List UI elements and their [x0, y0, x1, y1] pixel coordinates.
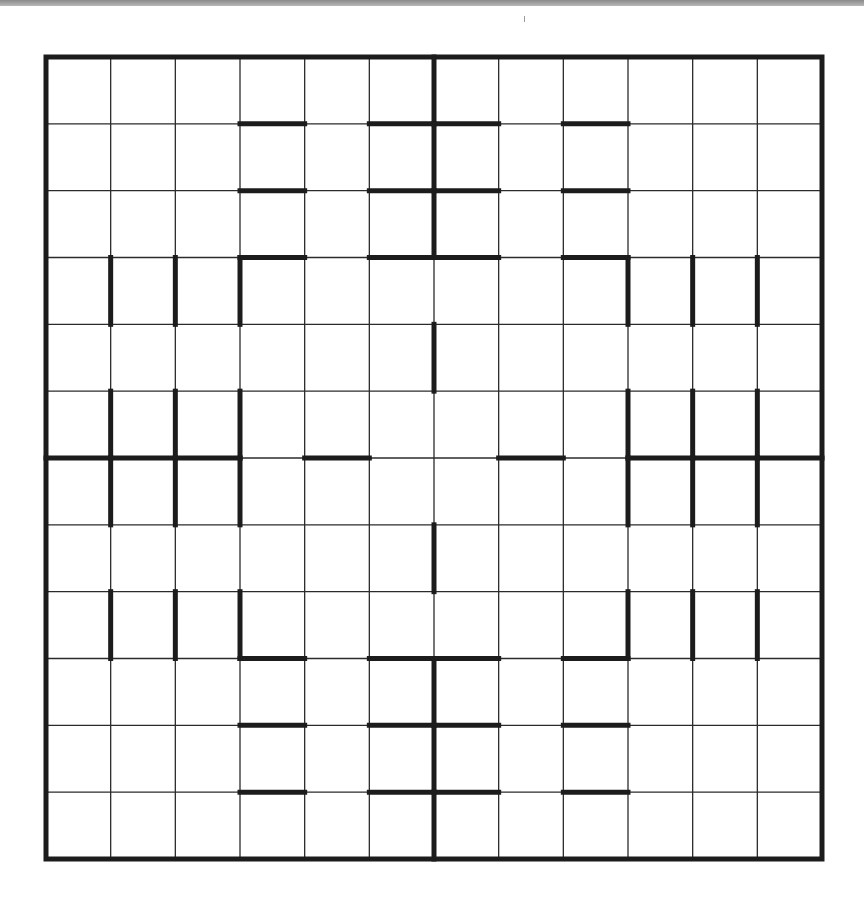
grid-cell-r3-c5[interactable]: [369, 258, 434, 325]
grid-cell-r0-c7[interactable]: [499, 57, 564, 124]
grid-cell-r10-c9[interactable]: [628, 725, 693, 792]
grid-cell-r0-c6[interactable]: [434, 57, 499, 124]
grid-cell-r3-c11[interactable]: [757, 258, 822, 325]
grid-cell-r2-c4[interactable]: [305, 191, 370, 258]
grid-cell-r11-c7[interactable]: [499, 792, 564, 859]
grid-cell-r2-c7[interactable]: [499, 191, 564, 258]
grid-cell-r1-c6[interactable]: [434, 124, 499, 191]
grid-cell-r0-c4[interactable]: [305, 57, 370, 124]
grid-cell-r8-c0[interactable]: [46, 592, 111, 659]
grid-cell-r3-c10[interactable]: [693, 258, 758, 325]
grid-cell-r5-c7[interactable]: [499, 391, 564, 458]
grid-cell-r2-c6[interactable]: [434, 191, 499, 258]
grid-cell-r10-c4[interactable]: [305, 725, 370, 792]
grid-cell-r2-c5[interactable]: [369, 191, 434, 258]
grid-cell-r9-c4[interactable]: [305, 659, 370, 726]
grid-cell-r7-c10[interactable]: [693, 525, 758, 592]
grid-cell-r9-c11[interactable]: [757, 659, 822, 726]
grid-cell-r5-c9[interactable]: [628, 391, 693, 458]
grid-cell-r1-c9[interactable]: [628, 124, 693, 191]
grid-cell-r8-c11[interactable]: [757, 592, 822, 659]
grid-cell-r2-c9[interactable]: [628, 191, 693, 258]
grid-cell-r11-c9[interactable]: [628, 792, 693, 859]
grid-cell-r8-c10[interactable]: [693, 592, 758, 659]
grid-cell-r3-c0[interactable]: [46, 258, 111, 325]
grid-cell-r8-c8[interactable]: [563, 592, 628, 659]
grid-cell-r6-c3[interactable]: [240, 458, 305, 525]
grid-cell-r1-c3[interactable]: [240, 124, 305, 191]
grid-cell-r1-c4[interactable]: [305, 124, 370, 191]
grid-cell-r3-c6[interactable]: [434, 258, 499, 325]
grid-cell-r11-c5[interactable]: [369, 792, 434, 859]
grid-cell-r6-c5[interactable]: [369, 458, 434, 525]
grid-cell-r5-c10[interactable]: [693, 391, 758, 458]
grid-cell-r1-c10[interactable]: [693, 124, 758, 191]
grid-cell-r7-c1[interactable]: [111, 525, 176, 592]
grid-cell-r3-c9[interactable]: [628, 258, 693, 325]
grid-cell-r11-c2[interactable]: [175, 792, 240, 859]
grid-cell-r0-c11[interactable]: [757, 57, 822, 124]
grid-cell-r0-c1[interactable]: [111, 57, 176, 124]
grid-cell-r1-c5[interactable]: [369, 124, 434, 191]
grid-cell-r7-c4[interactable]: [305, 525, 370, 592]
grid-cell-r2-c8[interactable]: [563, 191, 628, 258]
grid-cell-r9-c7[interactable]: [499, 659, 564, 726]
grid-cell-r0-c3[interactable]: [240, 57, 305, 124]
grid-cell-r8-c6[interactable]: [434, 592, 499, 659]
grid-cell-r6-c4[interactable]: [305, 458, 370, 525]
grid-cell-r10-c10[interactable]: [693, 725, 758, 792]
grid-cell-r10-c1[interactable]: [111, 725, 176, 792]
grid-cell-r7-c0[interactable]: [46, 525, 111, 592]
grid-cell-r9-c1[interactable]: [111, 659, 176, 726]
grid-cell-r4-c5[interactable]: [369, 324, 434, 391]
grid-cell-r10-c11[interactable]: [757, 725, 822, 792]
grid-cell-r3-c3[interactable]: [240, 258, 305, 325]
grid-cell-r0-c0[interactable]: [46, 57, 111, 124]
grid-cell-r8-c3[interactable]: [240, 592, 305, 659]
grid-cell-r7-c6[interactable]: [434, 525, 499, 592]
grid-cell-r0-c2[interactable]: [175, 57, 240, 124]
grid-cell-r0-c9[interactable]: [628, 57, 693, 124]
grid-cell-r11-c10[interactable]: [693, 792, 758, 859]
grid-cell-r11-c3[interactable]: [240, 792, 305, 859]
grid-cell-r4-c4[interactable]: [305, 324, 370, 391]
grid-cell-r2-c10[interactable]: [693, 191, 758, 258]
grid-cell-r11-c0[interactable]: [46, 792, 111, 859]
grid-cell-r5-c11[interactable]: [757, 391, 822, 458]
grid-cell-r11-c1[interactable]: [111, 792, 176, 859]
grid-cell-r2-c0[interactable]: [46, 191, 111, 258]
grid-cell-r9-c0[interactable]: [46, 659, 111, 726]
grid-cell-r11-c8[interactable]: [563, 792, 628, 859]
grid-cell-r5-c2[interactable]: [175, 391, 240, 458]
grid-cell-r7-c8[interactable]: [563, 525, 628, 592]
grid-cell-r1-c2[interactable]: [175, 124, 240, 191]
grid-cell-r9-c9[interactable]: [628, 659, 693, 726]
grid-cell-r6-c1[interactable]: [111, 458, 176, 525]
grid-cell-r11-c6[interactable]: [434, 792, 499, 859]
grid-cell-r10-c3[interactable]: [240, 725, 305, 792]
grid-cell-r10-c0[interactable]: [46, 725, 111, 792]
grid-cell-r10-c2[interactable]: [175, 725, 240, 792]
grid-cell-r5-c5[interactable]: [369, 391, 434, 458]
grid-cell-r6-c7[interactable]: [499, 458, 564, 525]
grid-cell-r4-c6[interactable]: [434, 324, 499, 391]
grid-cell-r2-c3[interactable]: [240, 191, 305, 258]
grid-cell-r4-c1[interactable]: [111, 324, 176, 391]
grid-cell-r6-c11[interactable]: [757, 458, 822, 525]
grid-cell-r0-c8[interactable]: [563, 57, 628, 124]
grid-cell-r9-c6[interactable]: [434, 659, 499, 726]
grid-cell-r1-c0[interactable]: [46, 124, 111, 191]
grid-cell-r4-c9[interactable]: [628, 324, 693, 391]
grid-cell-r6-c9[interactable]: [628, 458, 693, 525]
grid-cell-r9-c5[interactable]: [369, 659, 434, 726]
grid-cell-r5-c0[interactable]: [46, 391, 111, 458]
grid-cell-r8-c9[interactable]: [628, 592, 693, 659]
grid-cell-r7-c3[interactable]: [240, 525, 305, 592]
puzzle-grid[interactable]: [0, 0, 864, 907]
grid-cell-r2-c1[interactable]: [111, 191, 176, 258]
grid-cell-r9-c2[interactable]: [175, 659, 240, 726]
grid-cell-r0-c5[interactable]: [369, 57, 434, 124]
grid-cell-r4-c0[interactable]: [46, 324, 111, 391]
grid-cell-r3-c1[interactable]: [111, 258, 176, 325]
grid-cell-r9-c8[interactable]: [563, 659, 628, 726]
